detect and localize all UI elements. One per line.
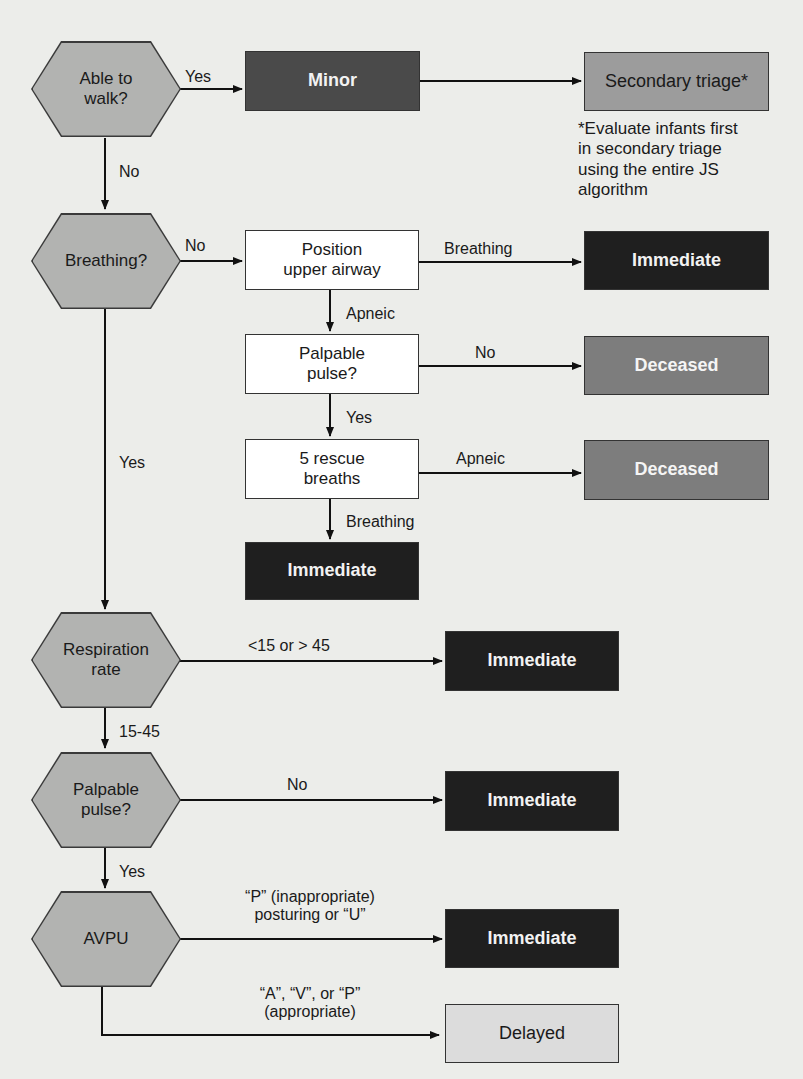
jumpstart-triage-flowchart: Able to walk? Breathing? Respiration rat… [0, 0, 803, 1079]
edge-label-avpu-delayed: “A”, “V”, or “P” (appropriate) [225, 985, 395, 1022]
outcome-immediate-pulse: Immediate [445, 771, 619, 831]
action-check-pulse: Palpable pulse? [245, 334, 419, 394]
decision-palpable-pulse: Palpable pulse? [31, 752, 181, 848]
edge-label-walk-no: No [119, 163, 139, 181]
edge-label-rr-normal: 15-45 [119, 723, 160, 741]
outcome-delayed: Delayed [445, 1004, 619, 1063]
outcome-immediate-avpu: Immediate [445, 909, 619, 968]
edge-label-palpable-yes: Yes [119, 863, 145, 881]
decision-able-to-walk: Able to walk? [31, 41, 181, 137]
outcome-immediate-rescue: Immediate [245, 542, 419, 600]
edge-label-breathing-no: No [185, 237, 205, 255]
outcome-secondary-triage: Secondary triage* [584, 52, 769, 111]
decision-avpu: AVPU [31, 891, 181, 987]
edge-label-airway-apneic: Apneic [346, 305, 395, 323]
footnote-infants: *Evaluate infants first in secondary tri… [578, 119, 738, 201]
edge-label-rr-abnormal: <15 or > 45 [248, 637, 330, 655]
edge-label-rescue-breathing: Breathing [346, 513, 415, 531]
edge-label-avpu-immediate: “P” (inappropriate) posturing or “U” [225, 888, 395, 925]
edge-label-breathing-yes: Yes [119, 454, 145, 472]
edge-label-palpable-no: No [287, 776, 307, 794]
edge-label-rescue-apneic: Apneic [456, 450, 505, 468]
edge-label-pulse-yes: Yes [346, 409, 372, 427]
outcome-deceased-apneic: Deceased [584, 440, 769, 500]
outcome-deceased-no-pulse: Deceased [584, 336, 769, 395]
edge-label-airway-breathing: Breathing [444, 240, 513, 258]
decision-respiration-rate: Respiration rate [31, 612, 181, 708]
action-position-airway: Position upper airway [245, 230, 419, 290]
outcome-minor: Minor [245, 51, 420, 111]
decision-breathing: Breathing? [31, 213, 181, 309]
edge-label-walk-yes: Yes [185, 68, 211, 86]
outcome-immediate-respiration: Immediate [445, 631, 619, 691]
edge-label-pulse-no: No [475, 344, 495, 362]
action-rescue-breaths: 5 rescue breaths [245, 439, 419, 499]
outcome-immediate-breathing: Immediate [584, 231, 769, 290]
